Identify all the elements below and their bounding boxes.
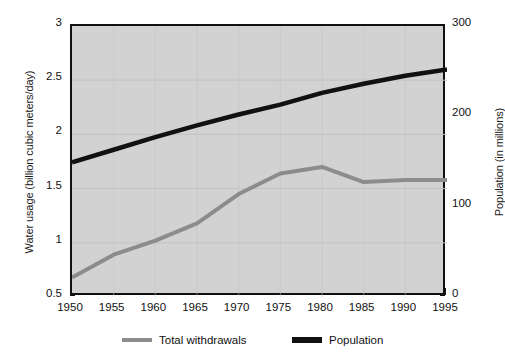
legend-swatch-total-withdrawals — [122, 338, 152, 342]
y-axis-left-tick-label: 1 — [20, 233, 62, 245]
y-axis-left-tick-label: 1.5 — [20, 179, 62, 191]
y-axis-left-tick-label: 3 — [20, 16, 62, 28]
y-axis-right-title: Population (in millions) — [493, 47, 505, 277]
legend-label-population: Population — [329, 334, 383, 346]
series-line-total-withdrawals — [72, 167, 447, 278]
legend-label-total-withdrawals: Total withdrawals — [159, 334, 247, 346]
legend-swatch-population — [292, 337, 322, 343]
y-axis-right-tick-label: 0 — [452, 287, 494, 299]
plot-area — [70, 24, 445, 295]
gridlines — [72, 26, 447, 297]
y-axis-right-tick-label: 200 — [452, 106, 494, 118]
plot-canvas — [72, 26, 447, 297]
x-axis-tick-label: 1995 — [420, 301, 470, 313]
legend-item-population: Population — [292, 330, 383, 350]
y-axis-right-tick-label: 300 — [452, 16, 494, 28]
chart-legend: Total withdrawals Population — [0, 330, 502, 354]
series-line-population — [72, 69, 447, 162]
y-axis-left-tick-label: 0.5 — [20, 287, 62, 299]
y-axis-left-tick-label: 2 — [20, 124, 62, 136]
y-axis-left-tick-label: 2.5 — [20, 70, 62, 82]
legend-item-total-withdrawals: Total withdrawals — [122, 330, 247, 350]
data-series-lines — [72, 69, 447, 277]
y-axis-right-tick-label: 100 — [452, 197, 494, 209]
